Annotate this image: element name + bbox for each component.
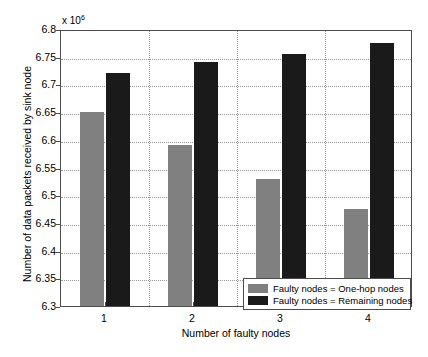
y-axis-tick-mark [56,113,60,114]
y-axis-tick-label: 6.3 [41,301,56,312]
x-axis-tick-label: 1 [84,312,124,324]
y-axis-tick-mark [56,196,60,197]
y-axis-tick-label: 6.8 [41,24,56,35]
legend-item-remaining[interactable]: Faulty nodes = Remaining nodes [248,294,406,306]
gridline-vertical [237,31,238,306]
y-axis-tick-mark [56,141,60,142]
bar-remaining-2 [194,62,218,306]
y-axis-tick-mark [56,224,60,225]
x-axis-tick-mark [105,302,106,306]
bar-remaining-4 [370,43,394,306]
legend-item-one-hop[interactable]: Faulty nodes = One-hop nodes [248,282,406,294]
y-axis-exponent-mantissa: x 10 [62,15,81,26]
gridline-vertical [325,31,326,306]
x-axis-tick-label: 3 [260,312,300,324]
y-axis-tick-mark [56,58,60,59]
legend-swatch-one-hop-icon [248,284,268,293]
gridline-vertical [149,31,150,306]
plot-area: Faulty nodes = One-hop nodes Faulty node… [60,30,412,307]
y-axis-tick-mark [56,307,60,308]
figure-canvas: x 106 6.36.356.46.456.56.556.66.656.76.7… [0,0,428,357]
x-axis-title: Number of faulty nodes [60,327,412,339]
y-axis-tick-label: 6.4 [41,246,56,257]
y-axis-title: Number of data packets received by sink … [21,39,33,309]
bar-one-hop-2 [168,145,192,306]
legend-label-one-hop: Faulty nodes = One-hop nodes [273,283,404,294]
y-axis-tick-mark [56,30,60,31]
y-axis-tick-label: 6.6 [41,135,56,146]
x-axis-tick-label: 2 [172,312,212,324]
y-axis-exponent-label: x 106 [62,14,85,26]
x-axis-tick-mark [193,302,194,306]
y-axis-tick-label: 6.7 [41,79,56,90]
bar-one-hop-1 [80,112,104,306]
x-axis-tick-label: 4 [348,312,388,324]
y-axis-tick-mark [56,279,60,280]
y-axis-tick-label: 6.45 [36,218,56,229]
y-axis-tick-label: 6.35 [36,273,56,284]
y-axis-tick-label: 6.65 [36,107,56,118]
y-axis-exponent-power: 6 [81,14,85,21]
gridline-horizontal [61,59,411,60]
bar-remaining-3 [282,54,306,306]
y-axis-tick-label: 6.5 [41,190,56,201]
chart-legend[interactable]: Faulty nodes = One-hop nodes Faulty node… [243,278,411,310]
y-axis-tick-mark [56,169,60,170]
y-axis-tick-label: 6.75 [36,52,56,63]
y-axis-tick-mark [56,85,60,86]
y-axis-tick-mark [56,252,60,253]
y-axis-tick-label: 6.55 [36,163,56,174]
bar-remaining-1 [106,73,130,306]
legend-swatch-remaining-icon [248,296,268,305]
legend-label-remaining: Faulty nodes = Remaining nodes [273,295,412,306]
